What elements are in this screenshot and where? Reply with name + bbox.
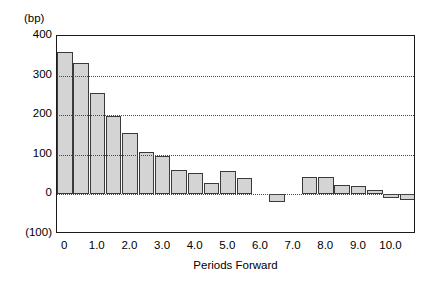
- x-axis-tick-label: 0: [61, 240, 67, 252]
- bar: [220, 171, 236, 194]
- x-axis-tick-label: 1.0: [89, 240, 105, 252]
- x-axis-tick-label: 9.0: [350, 240, 366, 252]
- y-axis-tick-label: 300: [8, 69, 52, 81]
- y-axis-tick-label: 400: [8, 29, 52, 41]
- bar: [122, 133, 138, 194]
- gridline: [57, 115, 414, 116]
- bar: [204, 183, 220, 194]
- bar: [139, 152, 155, 194]
- bar: [155, 156, 171, 195]
- x-axis-tick-label: 3.0: [154, 240, 170, 252]
- bar: [351, 186, 367, 195]
- bar-chart: (bp) 4003002001000(100) 01.02.03.04.05.0…: [0, 0, 441, 284]
- y-axis-tick-label: (100): [8, 227, 52, 239]
- x-axis-tick-label: 8.0: [317, 240, 333, 252]
- x-axis-tick-label: 4.0: [187, 240, 203, 252]
- gridline: [57, 194, 414, 195]
- y-axis-tick-labels: 4003002001000(100): [0, 0, 52, 284]
- gridline: [57, 76, 414, 77]
- y-axis-tick-label: 100: [8, 148, 52, 160]
- x-axis-tick-label: 7.0: [285, 240, 301, 252]
- bar: [90, 93, 106, 194]
- bar: [334, 185, 350, 195]
- gridline: [57, 155, 414, 156]
- bars-layer: [57, 36, 414, 232]
- bar: [188, 173, 204, 195]
- x-axis-tick-label: 6.0: [252, 240, 268, 252]
- x-axis-tick-label: 5.0: [219, 240, 235, 252]
- x-axis-tick-label: 2.0: [121, 240, 137, 252]
- bar: [73, 63, 89, 194]
- y-axis-tick-label: 0: [8, 187, 52, 199]
- bar: [269, 194, 285, 202]
- bar: [302, 177, 318, 195]
- x-axis-tick-label: 10.0: [379, 240, 401, 252]
- x-axis-title: Periods Forward: [56, 259, 415, 271]
- bar: [318, 177, 334, 195]
- bar: [57, 52, 73, 195]
- bar: [237, 178, 253, 195]
- bar: [171, 170, 187, 195]
- y-axis-tick-label: 200: [8, 108, 52, 120]
- plot-area: [56, 35, 415, 233]
